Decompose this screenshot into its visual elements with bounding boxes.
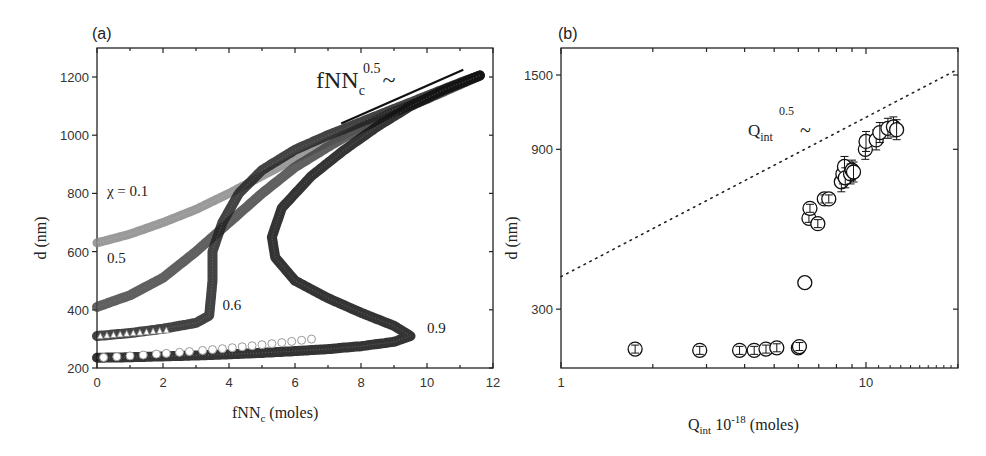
data-point [628,342,642,356]
data-point [693,343,707,357]
x-tick-label: 2 [159,375,166,390]
data-point [798,276,812,290]
series-4 [97,76,480,358]
figure: (a) 02468101220040060080010001200 χ = 0.… [0,0,986,456]
data-point [770,341,784,355]
x-tick-label: 10 [420,375,434,390]
series-label: 0.9 [427,320,446,336]
x-tick-label: 0 [93,375,100,390]
y-tick-label: 600 [67,245,89,260]
panel-a-label: (a) [92,25,112,42]
data-series-a [97,76,480,362]
panel-a: (a) 02468101220040060080010001200 χ = 0.… [32,25,500,424]
y-axis-label-a: d (nm) [32,216,50,259]
data-point [811,217,825,231]
y-tick-label: 1000 [60,128,89,143]
y-tick-label: 1500 [524,68,553,83]
x-axis-label-a: fNNc (moles) [232,404,318,424]
data-point [822,192,836,206]
panel-b: (b) 1103009001500 Qint0.5~ Qint 10-18 (m… [503,25,958,436]
data-point [792,340,806,354]
axis-b: 1103009001500 [524,48,958,390]
data-point [733,343,747,357]
y-tick-label: 800 [67,186,89,201]
power-law-line-b [561,69,958,276]
y-tick-label: 900 [531,142,553,157]
x-tick-label: 4 [225,375,232,390]
x-tick-label: 6 [291,375,298,390]
x-tick-label: 10 [859,375,873,390]
data-point [803,201,817,215]
series-label: 0.6 [222,297,241,313]
x-tick-label: 1 [557,375,564,390]
series-label: χ = 0.1 [106,183,148,199]
x-tick-label: 12 [486,375,500,390]
y-tick-label: 200 [67,361,89,376]
x-axis-label-b: Qint 10-18 (moles) [688,413,799,436]
y-tick-label: 400 [67,303,89,318]
panel-b-label: (b) [558,25,578,42]
plot-area-b [561,48,958,368]
y-tick-label: 1200 [60,70,89,85]
series-label: 0.5 [107,250,126,266]
y-tick-label: 300 [531,302,553,317]
y-axis-label-b: d (nm) [503,216,521,259]
power-law-annotation-a: fNNc0.5~ [316,61,395,98]
power-law-annotation-b: Qint0.5~ [748,104,811,144]
data-series-b [628,117,903,357]
x-tick-label: 8 [357,375,364,390]
